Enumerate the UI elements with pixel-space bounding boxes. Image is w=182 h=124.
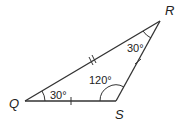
angle-label-r: 30° <box>127 42 144 54</box>
vertex-label-r: R <box>165 3 174 18</box>
triangle-diagram: 30° 30° 120° Q S R <box>0 0 182 124</box>
side-qr <box>25 21 160 101</box>
vertex-label-s: S <box>115 107 124 122</box>
angle-arc-r <box>143 31 151 38</box>
angle-label-q: 30° <box>50 89 67 101</box>
angle-arc-q <box>42 91 45 101</box>
vertex-label-q: Q <box>9 96 19 111</box>
angle-label-s: 120° <box>89 74 112 86</box>
